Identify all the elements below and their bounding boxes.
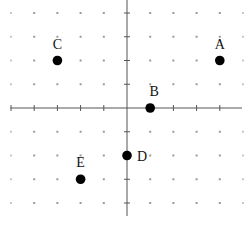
point-marker xyxy=(53,56,63,66)
grid-dot xyxy=(56,83,58,85)
grid-dot xyxy=(33,83,35,85)
grid-dot xyxy=(172,83,174,85)
grid-dot xyxy=(33,12,35,14)
grid-dot xyxy=(10,83,12,85)
grid-dot xyxy=(103,155,105,157)
grid-dot xyxy=(149,12,151,14)
grid-dot xyxy=(10,36,12,38)
grid-dot xyxy=(149,155,151,157)
point-label: A xyxy=(215,37,226,52)
grid-dot xyxy=(196,12,198,14)
grid-dot xyxy=(103,178,105,180)
plotted-points: ABCDE xyxy=(53,37,226,185)
point-c: C xyxy=(53,37,63,66)
grid-dot xyxy=(149,178,151,180)
grid-dot xyxy=(10,202,12,204)
grid-dot xyxy=(80,36,82,38)
grid-dot xyxy=(219,12,221,14)
axes xyxy=(11,0,243,216)
point-label: C xyxy=(53,37,62,52)
grid-dot xyxy=(172,60,174,62)
grid-dot xyxy=(242,155,244,157)
point-marker xyxy=(76,174,86,184)
point-marker xyxy=(215,56,225,66)
point-label: E xyxy=(76,155,85,170)
grid-dot xyxy=(10,178,12,180)
grid-dot xyxy=(103,60,105,62)
point-e: E xyxy=(76,155,86,184)
grid-dot xyxy=(33,202,35,204)
grid-dot xyxy=(172,131,174,133)
grid-dot xyxy=(33,155,35,157)
grid-dot xyxy=(103,131,105,133)
grid-dot xyxy=(172,12,174,14)
grid-dot xyxy=(56,178,58,180)
grid-dot xyxy=(56,202,58,204)
grid-dot xyxy=(80,131,82,133)
grid-dot xyxy=(242,12,244,14)
grid-dot xyxy=(56,12,58,14)
grid-dot xyxy=(242,178,244,180)
grid-dot xyxy=(33,131,35,133)
grid-dot xyxy=(242,131,244,133)
grid-dot xyxy=(103,36,105,38)
grid-dot xyxy=(219,83,221,85)
grid-dot xyxy=(56,131,58,133)
grid-dot xyxy=(242,36,244,38)
grid-dot xyxy=(10,60,12,62)
grid-dot xyxy=(219,202,221,204)
grid-dot xyxy=(172,36,174,38)
grid-dot xyxy=(56,155,58,157)
grid-dot xyxy=(242,60,244,62)
grid-dot xyxy=(80,60,82,62)
grid-dot xyxy=(219,131,221,133)
grid-dot xyxy=(196,178,198,180)
grid-dot xyxy=(80,202,82,204)
grid-dot xyxy=(219,155,221,157)
grid-dot xyxy=(10,155,12,157)
grid-dot xyxy=(33,178,35,180)
grid-dot xyxy=(196,60,198,62)
grid-dot xyxy=(103,202,105,204)
grid-dot xyxy=(103,83,105,85)
grid-dot xyxy=(149,60,151,62)
grid-dot xyxy=(10,131,12,133)
grid-dot xyxy=(80,83,82,85)
grid-dot xyxy=(33,36,35,38)
grid-dot xyxy=(196,131,198,133)
grid-dot xyxy=(172,202,174,204)
grid-dot xyxy=(172,178,174,180)
grid-dot xyxy=(196,83,198,85)
point-marker xyxy=(122,151,132,161)
point-label: B xyxy=(150,84,159,99)
grid-dot xyxy=(103,12,105,14)
point-marker xyxy=(145,103,155,113)
grid-dot xyxy=(196,36,198,38)
grid-dot xyxy=(196,155,198,157)
grid-dot xyxy=(149,36,151,38)
point-d: D xyxy=(122,149,147,164)
point-label: D xyxy=(137,149,147,164)
grid-dot xyxy=(242,202,244,204)
point-a: A xyxy=(215,37,226,66)
grid-dot xyxy=(33,60,35,62)
grid-dot xyxy=(196,202,198,204)
grid-dot xyxy=(172,155,174,157)
coordinate-plane: ABCDE xyxy=(0,0,251,225)
grid-dot xyxy=(149,131,151,133)
grid-dot xyxy=(242,83,244,85)
grid-dot xyxy=(149,202,151,204)
grid-dot xyxy=(80,12,82,14)
grid-dot xyxy=(219,178,221,180)
grid-dot xyxy=(10,12,12,14)
